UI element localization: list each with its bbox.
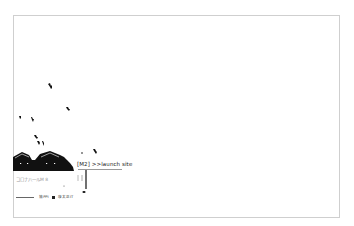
launch-site-link[interactable]: [M2] >>launch site [77, 161, 132, 167]
bird-icon [19, 83, 97, 154]
footer-item-2[interactable]: 康太正IT [58, 195, 73, 199]
footer-divider [16, 197, 34, 198]
subtitle-text: コロナ八一ルM 8 [16, 176, 48, 182]
footer: 協PPI 康太正IT [16, 194, 73, 199]
post-silhouette [78, 170, 86, 189]
footer-item-1[interactable]: 協PPI [39, 195, 48, 199]
link-underline-divider [78, 169, 122, 170]
landscape-illustration [0, 0, 354, 226]
square-bullet-icon [52, 196, 55, 199]
